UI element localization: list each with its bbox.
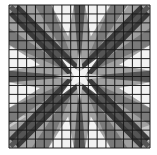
- quilt-pattern: [0, 0, 157, 155]
